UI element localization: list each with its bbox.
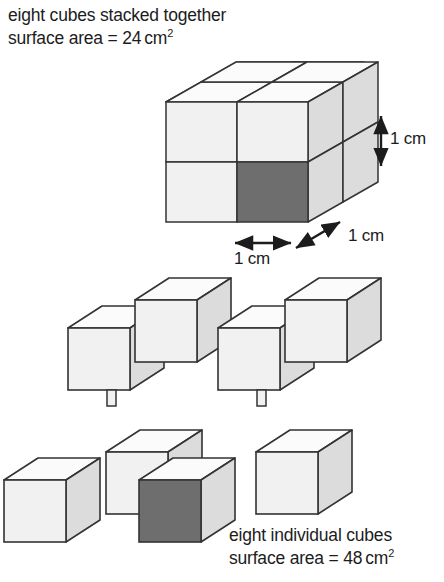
cube-front-face — [256, 452, 318, 514]
cube-front-right-rear — [256, 430, 352, 514]
cube-front-left-bottom — [4, 458, 100, 542]
cube-diagram-canvas — [0, 0, 444, 582]
front-face-bottom-right-shaded — [237, 162, 308, 222]
front-face-top-left — [166, 102, 237, 162]
stacked-block-front-faces — [166, 102, 308, 222]
front-face-top-right — [237, 102, 308, 162]
connector-stub-left — [107, 390, 116, 406]
cube-front-middle-bottom-shaded — [139, 458, 235, 542]
cube-front-face — [218, 328, 280, 390]
cube-back-right-rear — [285, 278, 381, 362]
dimension-arrow-depth — [296, 222, 340, 248]
cube-back-left-rear — [135, 278, 231, 362]
cube-front-face — [4, 480, 66, 542]
cube-front-face — [135, 300, 197, 362]
exploded-cube-group — [4, 278, 381, 542]
cube-front-face-shaded — [139, 480, 201, 542]
connector-stub-right — [257, 390, 266, 406]
front-face-bottom-left — [166, 162, 237, 222]
cube-front-face — [68, 328, 130, 390]
cube-connector-stubs — [107, 390, 266, 406]
stacked-cube-block — [166, 62, 378, 222]
cube-front-face — [285, 300, 347, 362]
